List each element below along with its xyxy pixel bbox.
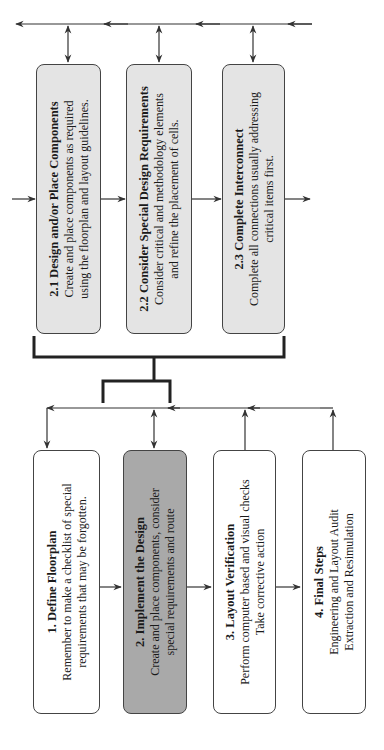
step-line: Perform computer based and visual checks xyxy=(238,479,253,685)
substep-title: 2.1 Design and/or Place Components xyxy=(46,99,62,298)
substep-title: 2.2 Consider Special Design Requirements xyxy=(136,86,152,312)
step-line: Take corrective action xyxy=(253,479,268,685)
substep-line: Consider critical and methodology elemen… xyxy=(152,86,167,312)
step-line: Extraction and Resimulation xyxy=(342,509,357,655)
substep-special-design-requirements: 2.2 Consider Special Design Requirements… xyxy=(126,64,192,334)
step-line: Create and place components, consider xyxy=(148,488,163,676)
step-define-floorplan: 1. Define Floorplan Remember to make a c… xyxy=(33,450,100,714)
step-title: 3. Layout Verification xyxy=(222,479,238,685)
step-line: special requirements and route xyxy=(163,488,178,676)
substep-line: critical items first. xyxy=(262,92,277,306)
substep-design-place-components: 2.1 Design and/or Place Components Creat… xyxy=(36,64,101,334)
substep-line: Create and place components as required xyxy=(62,99,77,298)
step-title: 4. Final Steps xyxy=(311,509,327,655)
substep-line: and refine the placement of cells. xyxy=(167,86,182,312)
step-implement-design: 2. Implement the Design Create and place… xyxy=(123,450,187,714)
substep-line: Complete all connections usually address… xyxy=(247,92,262,306)
substep-line: using the floorplan and layout guideline… xyxy=(77,99,92,298)
substep-title: 2.3 Complete Interconnect xyxy=(231,92,247,306)
step-line: Engineering and Layout Audit xyxy=(327,509,342,655)
step-line: requirements that may be forgotten. xyxy=(75,483,90,680)
step-layout-verification: 3. Layout Verification Perform computer … xyxy=(213,450,276,714)
step-title: 2. Implement the Design xyxy=(132,488,148,676)
step-line: Remember to make a checklist of special xyxy=(60,483,75,680)
substep-complete-interconnect: 2.3 Complete Interconnect Complete all c… xyxy=(222,64,285,334)
step-final-steps: 4. Final Steps Engineering and Layout Au… xyxy=(302,450,366,714)
step-title: 1. Define Floorplan xyxy=(44,483,60,680)
